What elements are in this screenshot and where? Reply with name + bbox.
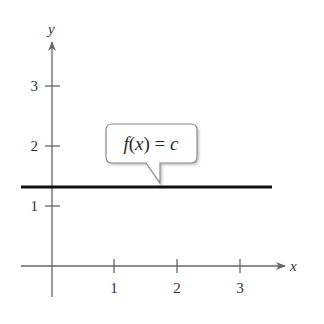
- x-tick-label-1: 1: [110, 280, 118, 296]
- y-axis-label: y: [46, 21, 55, 37]
- x-tick-label-2: 2: [173, 280, 181, 296]
- constant-function-graph: 1 2 3 1 2 3 x y f(x) = c: [0, 0, 324, 324]
- y-tick-label-1: 1: [31, 198, 39, 214]
- y-tick-label-3: 3: [31, 78, 39, 94]
- callout-label: f(x) = c: [123, 133, 179, 155]
- y-tick-label-2: 2: [31, 138, 39, 154]
- x-tick-label-3: 3: [236, 280, 244, 296]
- x-axis-label: x: [289, 258, 297, 274]
